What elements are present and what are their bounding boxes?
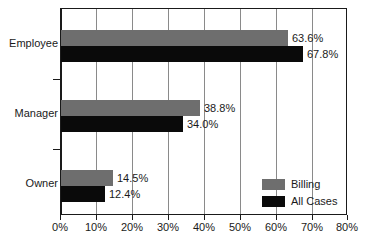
xtick-mark-0 bbox=[60, 215, 61, 220]
xtick-label-70: 70% bbox=[292, 221, 332, 234]
data-label-billing-employee: 63.6% bbox=[292, 30, 323, 46]
xtick-mark-80 bbox=[347, 215, 348, 220]
legend-item-all-cases[interactable]: All Cases bbox=[262, 194, 344, 209]
data-label-billing-manager: 38.8% bbox=[204, 100, 235, 116]
bar-billing-owner[interactable] bbox=[61, 170, 113, 186]
bar-allcases-employee[interactable] bbox=[61, 46, 303, 62]
data-label-allcases-employee: 67.8% bbox=[307, 46, 338, 62]
category-label-owner: Owner bbox=[0, 177, 58, 190]
xtick-mark-30 bbox=[168, 215, 169, 220]
xtick-mark-10 bbox=[96, 215, 97, 220]
bar-allcases-manager[interactable] bbox=[61, 116, 183, 132]
xtick-label-60: 60% bbox=[256, 221, 296, 234]
bar-allcases-owner[interactable] bbox=[61, 186, 105, 202]
category-tick-2 bbox=[53, 149, 60, 150]
xtick-mark-60 bbox=[276, 215, 277, 220]
xtick-label-30: 30% bbox=[148, 221, 188, 234]
legend-label-billing: Billing bbox=[291, 178, 320, 191]
bar-chart: 63.6% 67.8% Employee 38.8% 34.0% Manager… bbox=[0, 0, 366, 244]
xtick-mark-20 bbox=[132, 215, 133, 220]
xtick-mark-40 bbox=[204, 215, 205, 220]
legend-label-all-cases: All Cases bbox=[291, 195, 337, 208]
xtick-label-40: 40% bbox=[184, 221, 224, 234]
category-label-manager: Manager bbox=[0, 107, 58, 120]
legend-item-billing[interactable]: Billing bbox=[262, 177, 344, 192]
xtick-label-0: 0% bbox=[40, 221, 80, 234]
xtick-label-50: 50% bbox=[220, 221, 260, 234]
category-label-employee: Employee bbox=[0, 37, 58, 50]
xtick-label-80: 80% bbox=[327, 221, 366, 234]
xtick-mark-50 bbox=[240, 215, 241, 220]
data-label-billing-owner: 14.5% bbox=[117, 170, 148, 186]
xtick-label-20: 20% bbox=[112, 221, 152, 234]
legend: Billing All Cases bbox=[262, 177, 344, 211]
bar-billing-employee[interactable] bbox=[61, 30, 288, 46]
category-tick-1 bbox=[53, 79, 60, 80]
xtick-mark-70 bbox=[312, 215, 313, 220]
data-label-allcases-manager: 34.0% bbox=[187, 116, 218, 132]
legend-swatch-all-cases-icon bbox=[262, 196, 285, 207]
data-label-allcases-owner: 12.4% bbox=[109, 186, 140, 202]
bar-billing-manager[interactable] bbox=[61, 100, 200, 116]
xtick-label-10: 10% bbox=[76, 221, 116, 234]
legend-swatch-billing-icon bbox=[262, 179, 285, 190]
